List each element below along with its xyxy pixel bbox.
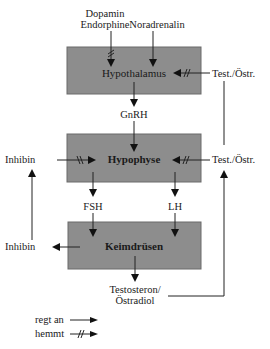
lh-label: LH [168, 201, 182, 212]
hypophyse-label: Hypophyse [108, 153, 161, 165]
gnrh-label: GnRH [120, 109, 148, 120]
dopamin-label: Dopamin [85, 8, 125, 19]
legend-stimulates-arrow [90, 317, 98, 323]
fsh-label: FSH [83, 201, 103, 212]
testosteron-label: Testosteron/ [109, 284, 160, 295]
legend-inhibits-label: hemmt [35, 328, 64, 339]
test-oestr-top-label: Test./Östr. [212, 68, 255, 79]
endorphine-label: Endorphine [81, 19, 130, 30]
edge-inhibin-feedback [28, 169, 36, 240]
legend-inhibits-arrow [90, 331, 98, 337]
noradrenalin-label: Noradrenalin [129, 19, 185, 30]
oestradiol-label: Östradiol [115, 295, 154, 306]
legend-stimulates-label: regt an [35, 314, 65, 325]
hypothalamus-label: Hypothalamus [102, 67, 166, 79]
inhibin-top-label: Inhibin [5, 154, 36, 165]
inhibin-bottom-label: Inhibin [5, 241, 36, 252]
keimdruesen-label: Keimdrüsen [105, 240, 163, 252]
hormone-regulation-diagram: Hypothalamus Hypophyse Keimdrüsen Dopami… [0, 0, 270, 349]
legend: regt an hemmt [35, 314, 98, 339]
test-oestr-mid-label: Test./Östr. [212, 154, 255, 165]
